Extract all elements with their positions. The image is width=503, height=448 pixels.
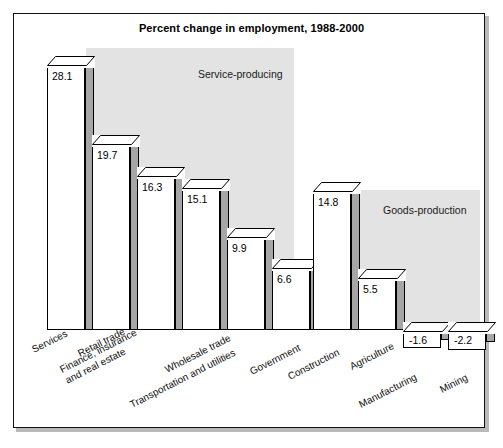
bar-value-transportation-utilities: 9.9 — [232, 242, 247, 254]
bar-front — [92, 144, 130, 330]
bar-value-services: 28.1 — [52, 70, 72, 82]
bar-retail-trade — [92, 0, 130, 448]
bar-value-agriculture: 5.5 — [363, 283, 378, 295]
bar-top-face — [227, 228, 275, 240]
bar-top-face — [358, 269, 406, 281]
bar-value-manufacturing: -1.6 — [409, 334, 427, 346]
bar-transportation-utilities — [227, 0, 265, 448]
bar-front — [137, 176, 175, 330]
bar-top-face — [92, 135, 140, 147]
bar-front — [47, 65, 85, 330]
bar-top-face — [313, 182, 361, 194]
bar-value-wholesale-trade: 15.1 — [187, 193, 207, 205]
bar-top-face — [182, 179, 230, 191]
bar-front — [313, 191, 351, 330]
bar-agriculture — [358, 0, 396, 448]
bar-value-government: 6.6 — [277, 273, 292, 285]
bar-top-face — [403, 322, 451, 334]
bar-value-finance-insurance-real-estate: 16.3 — [142, 181, 162, 193]
bar-value-construction: 14.8 — [318, 196, 338, 208]
bar-top-face — [137, 167, 185, 179]
chart-screenshot: Percent change in employment, 1988-2000 … — [0, 0, 503, 448]
bar-value-mining: -2.2 — [454, 334, 472, 346]
bar-value-retail-trade: 19.7 — [97, 149, 117, 161]
bar-top-face — [47, 56, 95, 68]
bar-construction — [313, 0, 351, 448]
bar-front — [182, 188, 220, 330]
bar-top-face — [448, 322, 496, 334]
